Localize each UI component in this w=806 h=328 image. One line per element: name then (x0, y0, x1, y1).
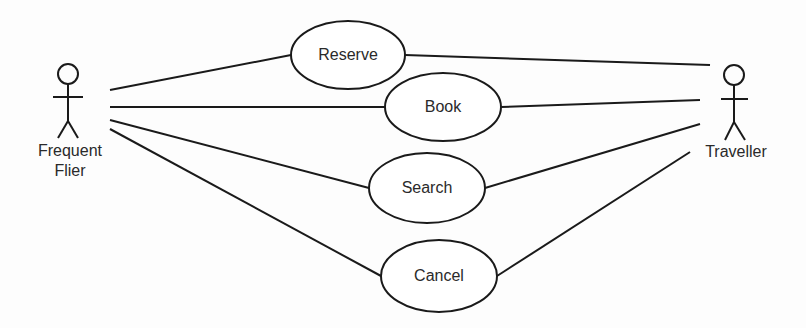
reserve-label: Reserve (318, 46, 378, 64)
traveller-label: Traveller (696, 143, 776, 161)
association-frequent-flier-search (110, 120, 369, 188)
diagram-graphics (0, 0, 806, 328)
search-label: Search (402, 179, 453, 197)
cancel-label: Cancel (414, 267, 464, 285)
association-frequent-flier-cancel (110, 129, 381, 276)
association-frequent-flier-reserve (110, 55, 291, 90)
association-traveller-book (501, 100, 700, 107)
frequent-flier-actor-icon (53, 64, 83, 138)
book-label: Book (425, 98, 461, 116)
use-case-diagram: Frequent Flier Traveller Reserve Book Se… (0, 0, 806, 328)
association-traveller-cancel (497, 152, 690, 276)
association-traveller-search (485, 124, 700, 188)
association-traveller-reserve (405, 55, 710, 65)
frequent-flier-label-line1: Frequent (35, 142, 105, 160)
frequent-flier-label-line2: Flier (35, 162, 105, 180)
traveller-actor-icon (721, 65, 748, 140)
